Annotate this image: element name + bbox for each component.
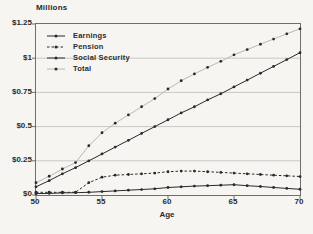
pension-line-marker-icon xyxy=(46,43,66,51)
y-tick-label-0.75: $0.75 xyxy=(2,88,32,96)
x-tick-label-60: 60 xyxy=(155,198,179,206)
legend-label-earnings: Earnings xyxy=(73,31,107,40)
x-tick-label-55: 55 xyxy=(89,198,113,206)
y-tick-label-0: $0 xyxy=(2,190,32,198)
social-security-line-marker-icon xyxy=(46,54,66,62)
earnings-line-marker-icon xyxy=(46,32,66,40)
legend-label-social-security: Social Security xyxy=(73,53,130,62)
y-tick-label-1.25: $1.25 xyxy=(2,19,32,27)
y-tick-label-0.5: $0.5 xyxy=(2,122,32,130)
x-tick-label-70: 70 xyxy=(287,198,311,206)
legend-item-social-security: Social Security xyxy=(46,52,130,63)
y-axis-units-label: Millions xyxy=(36,3,67,12)
legend-item-total: Total xyxy=(46,63,130,74)
plot-area: Earnings Pension Social Security Total xyxy=(35,23,301,196)
y-tick-label-0.25: $0.25 xyxy=(2,156,32,164)
legend: Earnings Pension Social Security Total xyxy=(46,30,130,74)
total-line-marker-icon xyxy=(46,65,66,73)
y-tick-label-1: $1 xyxy=(2,54,32,62)
x-tick-label-50: 50 xyxy=(23,198,47,206)
legend-item-pension: Pension xyxy=(46,41,130,52)
x-axis-title: Age xyxy=(145,210,189,219)
legend-label-pension: Pension xyxy=(73,42,104,51)
legend-item-earnings: Earnings xyxy=(46,30,130,41)
legend-label-total: Total xyxy=(73,64,91,73)
x-tick-label-65: 65 xyxy=(221,198,245,206)
retirement-projection-chart: Millions $1.25 $1 $0.75 $0.5 $0.25 $0 Ea… xyxy=(0,0,313,234)
